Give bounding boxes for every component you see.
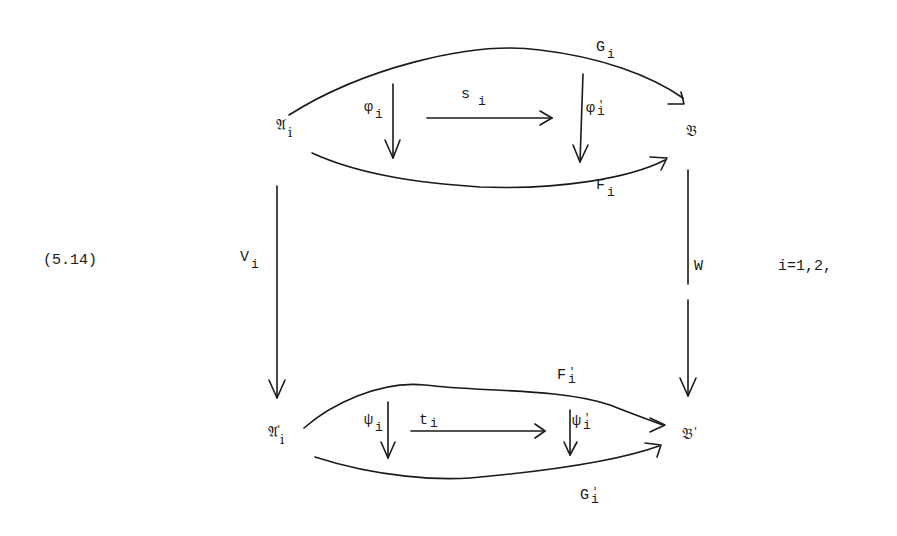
node-B-prime: 𝔅' bbox=[682, 427, 697, 442]
label-G-i-prime: Gi' bbox=[580, 488, 598, 503]
label-G-i-prime-symbol: G bbox=[580, 488, 589, 503]
label-F-i-prime-mark: ' bbox=[569, 366, 576, 378]
label-V-i: Vi bbox=[240, 250, 259, 265]
node-B-prime-symbol: 𝔅 bbox=[682, 427, 693, 442]
equation-number: (5.14) bbox=[43, 253, 97, 268]
label-F-i: Fi bbox=[596, 178, 615, 193]
arrow-G-i-prime bbox=[315, 446, 659, 479]
label-phi-i-prime-symbol: φ bbox=[586, 101, 595, 116]
label-psi-i-subscript: i bbox=[375, 421, 383, 434]
node-A-i-subscript: i bbox=[288, 126, 292, 139]
label-t-i-symbol: t bbox=[419, 413, 428, 428]
node-A-i-prime-subscript: i bbox=[280, 433, 284, 446]
label-F-i-prime: Fi' bbox=[557, 368, 575, 383]
label-t-i-subscript: i bbox=[430, 417, 438, 430]
label-G-i: Gi bbox=[596, 40, 615, 55]
label-psi-i-symbol: ψ bbox=[364, 413, 373, 428]
arrow-G-i bbox=[289, 48, 683, 115]
label-F-i-symbol: F bbox=[596, 178, 605, 193]
label-V-i-symbol: V bbox=[240, 250, 249, 265]
label-phi-i-prime: φi' bbox=[586, 101, 604, 116]
node-B-prime-mark: ' bbox=[694, 425, 697, 438]
label-V-i-subscript: i bbox=[251, 258, 259, 271]
label-psi-i-prime-symbol: ψ bbox=[572, 414, 581, 429]
node-B-symbol: 𝔅 bbox=[686, 124, 697, 139]
label-G-i-symbol: G bbox=[596, 40, 605, 55]
label-phi-i-symbol: φ bbox=[364, 100, 373, 115]
commutative-diagram: (5.14) i=1,2, 𝔄i 𝔅 𝔄i' 𝔅' Gi φi si φi' F… bbox=[0, 0, 897, 536]
label-G-i-subscript: i bbox=[607, 48, 615, 61]
label-F-i-prime-symbol: F bbox=[557, 368, 566, 383]
label-psi-i-prime: ψi' bbox=[572, 414, 590, 429]
label-G-i-prime-mark: ' bbox=[592, 486, 599, 498]
arrow-F-i-prime bbox=[304, 384, 663, 428]
label-phi-i-subscript: i bbox=[375, 108, 383, 121]
label-W: W bbox=[694, 259, 703, 274]
node-A-i-prime: 𝔄i' bbox=[268, 425, 280, 440]
index-condition: i=1,2, bbox=[778, 259, 832, 274]
diagram-arrows bbox=[0, 0, 897, 536]
node-B: 𝔅 bbox=[686, 124, 697, 139]
equation-number-text: (5.14) bbox=[43, 253, 97, 268]
label-phi-i: φi bbox=[364, 100, 383, 115]
label-t-i: ti bbox=[419, 413, 438, 428]
node-A-i: 𝔄i bbox=[276, 118, 292, 133]
arrow-phi-i-prime bbox=[580, 74, 583, 162]
label-s-i: si bbox=[461, 87, 486, 102]
label-psi-i-prime-mark: ' bbox=[584, 412, 591, 424]
node-A-i-prime-mark: ' bbox=[277, 423, 280, 436]
index-condition-text: i=1,2, bbox=[778, 259, 832, 274]
label-s-i-symbol: s bbox=[461, 87, 470, 102]
label-phi-i-prime-mark: ' bbox=[598, 99, 605, 111]
label-s-i-subscript: i bbox=[478, 95, 486, 108]
node-A-i-symbol: 𝔄 bbox=[276, 118, 286, 133]
label-W-symbol: W bbox=[694, 259, 703, 274]
label-F-i-subscript: i bbox=[607, 186, 615, 199]
label-psi-i: ψi bbox=[364, 413, 383, 428]
